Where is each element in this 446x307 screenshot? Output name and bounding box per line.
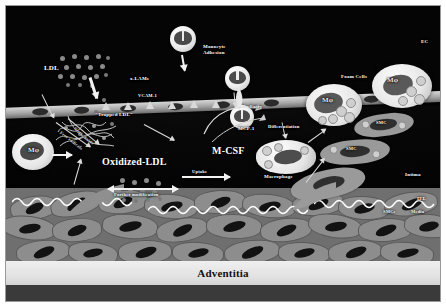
label-macrophage: Macrophage [264,174,293,179]
label-entry: Entry [250,104,262,109]
label-vcam1: VCAM-1 [138,93,157,98]
lipid-vacuole [398,96,408,106]
lipid-vacuole [318,116,327,125]
media-smc [5,213,57,243]
lipid-vacuole [329,146,338,155]
lipid-vacuole [274,143,283,152]
lipid-vacuole [344,112,355,123]
label-uptake: Uptake [192,169,207,174]
adventitia-shadow [6,285,440,301]
lipid-vacuole [414,94,425,105]
media-smc [51,216,103,243]
label-media: Media [411,209,424,214]
foam-cell-right-1 [306,84,362,126]
media-smc [403,212,441,240]
label-ldl: LDL [44,64,59,72]
label-x-lams: x-LAMs [130,76,149,81]
label-mphi-right-2: Mφ [387,76,398,84]
label-trapped-ldl: "Trapped LDL" [95,112,133,117]
label-oxidized-ldl: Oxidized-LDL [102,156,167,167]
iel-wave-center [148,202,308,216]
media-smc [206,213,263,240]
label-ec: EC [421,39,428,44]
label-iel: IEL [417,196,426,201]
lipid-vacuole [372,150,381,159]
lipid-vacuole [262,146,272,156]
label-differentiation: Differentiation [268,124,299,129]
lipid-vacuole [346,98,356,108]
lipid-vacuole [300,146,309,155]
label-monocyte-adhesion-line2: Adhesion [203,50,226,56]
label-monocyte-adhesion: Monocyte Adhesion [203,44,226,56]
arrow-uptake [182,176,230,178]
lipid-vacuole [264,160,273,169]
ldl-cluster-lumen [58,54,118,88]
monocyte-top [170,26,196,52]
lipid-vacuole [416,76,426,86]
label-mcsf: M-CSF [212,145,245,156]
arrow-further-modification [108,188,178,190]
label-further-modification: Further modification [114,192,159,197]
lipid-vacuole [361,120,370,129]
lipid-vacuole [398,121,407,130]
figure-frame: Adventitia [5,5,441,302]
macrophage-center [256,140,316,174]
label-smc-mid: SMC [346,146,357,151]
label-smc-upper: SMC [376,120,387,125]
foam-cell-right-2 [372,64,432,108]
arrow-macrophage-to-ox [52,154,72,156]
ldl-particle [102,98,106,102]
adventitia-region: Adventitia [6,261,440,287]
lipid-vacuole [328,114,338,124]
label-smcs: SMCs [383,209,396,214]
label-adventitia: Adventitia [6,267,440,279]
smc-crossing-iel [292,182,336,212]
label-mphi-left: Mφ [28,146,39,154]
label-mcp1: MCP-1 [238,126,255,131]
label-intima: Intima [405,172,421,177]
label-monocyte-adhesion-line1: Monocyte [203,44,226,50]
label-foam-cells: Foam Cells [341,74,367,79]
figure-root: Adventitia [0,0,446,307]
label-mphi-right-1: Mφ [322,96,333,104]
